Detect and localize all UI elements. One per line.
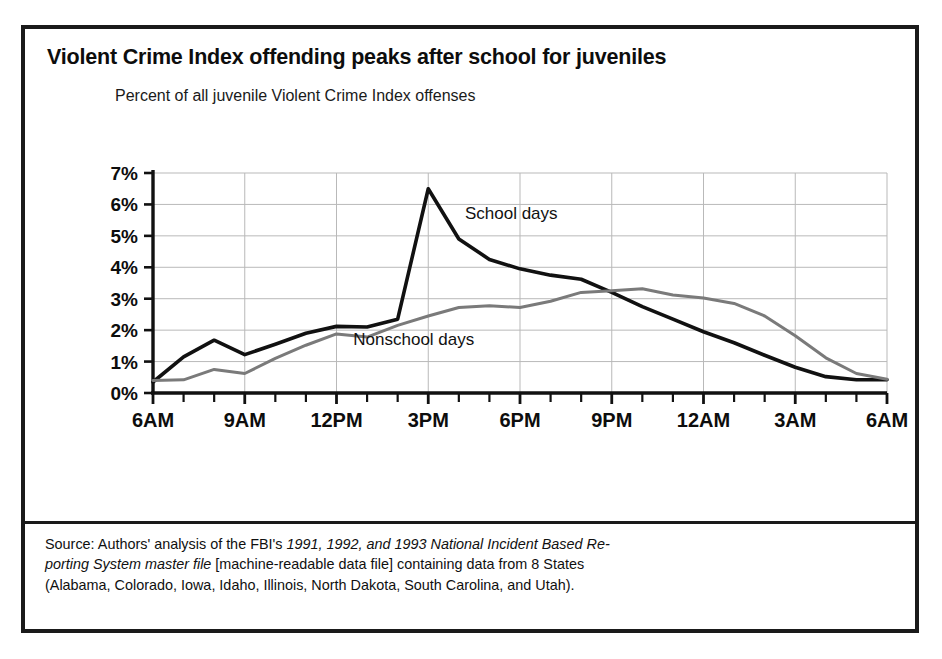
plot-area: 0%1%2%3%4%5%6%7% 6AM9AM12PM3PM6PM9PM12AM…	[25, 121, 915, 451]
vertical-gridlines	[245, 173, 887, 393]
x-axis-tick-label: 12AM	[677, 409, 730, 431]
source-line: Source: Authors' analysis of the FBI's 1…	[45, 534, 907, 554]
x-axis-tick-label: 6AM	[866, 409, 908, 431]
x-axis-tick-labels: 6AM9AM12PM3PM6PM9PM12AM3AM6AM	[132, 409, 908, 431]
series-annotations: School daysNonschool days	[353, 204, 557, 350]
x-axis-tick-label: 9PM	[591, 409, 632, 431]
chart-subtitle: Percent of all juvenile Violent Crime In…	[115, 87, 476, 105]
series-annotation-school-days: School days	[465, 204, 558, 223]
y-axis-tick-label: 7%	[111, 163, 139, 184]
x-axis-tick-label: 6AM	[132, 409, 174, 431]
source-line: porting System master file [machine-read…	[45, 554, 907, 574]
x-axis-tick-label: 12PM	[310, 409, 362, 431]
y-axis-tick-label: 2%	[111, 320, 139, 341]
chart-title: Violent Crime Index offending peaks afte…	[47, 45, 666, 70]
x-axis-tick-label: 6PM	[499, 409, 540, 431]
y-axis-tick-label: 5%	[111, 226, 139, 247]
line-chart-svg: 0%1%2%3%4%5%6%7% 6AM9AM12PM3PM6PM9PM12AM…	[25, 121, 915, 451]
series-annotation-nonschool-days: Nonschool days	[353, 330, 474, 349]
y-axis-tick-label: 6%	[111, 194, 139, 215]
source-text-run: Source: Authors' analysis of the FBI's	[45, 536, 286, 552]
source-line: (Alabama, Colorado, Iowa, Idaho, Illinoi…	[45, 575, 907, 595]
source-divider	[25, 521, 915, 524]
source-note: Source: Authors' analysis of the FBI's 1…	[45, 534, 907, 595]
y-axis-tick-label: 3%	[111, 289, 139, 310]
source-text-run: porting System master file	[45, 556, 211, 572]
figure-frame: Violent Crime Index offending peaks afte…	[21, 25, 919, 633]
y-axis-tick-labels: 0%1%2%3%4%5%6%7%	[111, 163, 139, 404]
x-axis-tick-label: 3AM	[774, 409, 816, 431]
y-axis-tick-label: 1%	[111, 352, 139, 373]
x-axis-tick-label: 3PM	[408, 409, 449, 431]
y-axis-tick-label: 4%	[111, 257, 139, 278]
x-axis-tick-label: 9AM	[224, 409, 266, 431]
source-text-run: 1991, 1992, and 1993 National Incident B…	[286, 536, 609, 552]
source-text-run: (Alabama, Colorado, Iowa, Idaho, Illinoi…	[45, 577, 575, 593]
y-axis-tick-label: 0%	[111, 383, 139, 404]
source-text-run: [machine-readable data file] containing …	[211, 556, 584, 572]
